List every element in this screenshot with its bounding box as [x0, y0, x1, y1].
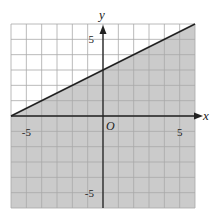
y-tick-label: -5 — [85, 187, 95, 199]
y-tick-label: 5 — [89, 33, 95, 45]
origin-label: O — [106, 119, 115, 133]
inequality-graph: x y O -555-5 — [0, 0, 214, 219]
x-tick-label: -5 — [22, 126, 32, 138]
x-axis-arrow-icon — [194, 113, 203, 120]
y-axis-arrow-icon — [100, 25, 107, 34]
x-axis-label: x — [202, 108, 209, 123]
x-tick-label: 5 — [177, 126, 183, 138]
y-axis-label: y — [97, 7, 105, 22]
